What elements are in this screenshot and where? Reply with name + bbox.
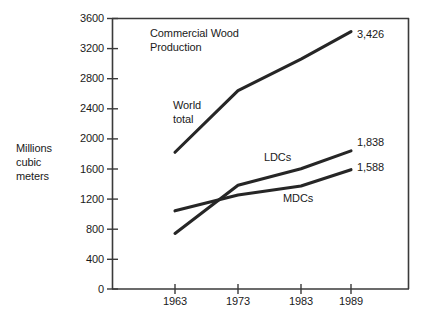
value-label-ldcs: 1,838 <box>357 136 384 149</box>
y-tick-label-400: 400 <box>66 253 104 266</box>
chart-title-line-1: Commercial Wood <box>150 26 239 40</box>
y-tick-label-1600: 1600 <box>66 163 104 176</box>
series-label-mdcs: MDCs <box>283 191 313 205</box>
series-line-mdcs <box>175 170 351 211</box>
y-tick-label-2000: 2000 <box>66 132 104 145</box>
y-tick-label-1200: 1200 <box>66 193 104 206</box>
chart-canvas <box>0 0 429 315</box>
series-label-world-total-line-2: total <box>173 112 193 126</box>
x-tick-label-1989: 1989 <box>328 295 374 308</box>
y-axis-title-line-2: cubic <box>16 155 41 169</box>
series-label-world-total-line-1: World <box>173 98 201 112</box>
y-axis-title-line-3: meters <box>16 169 49 183</box>
y-tick-label-2800: 2800 <box>66 72 104 85</box>
commercial-wood-production-chart: 3600 3200 2800 2400 2000 1600 1200 800 4… <box>0 0 429 315</box>
value-label-mdcs: 1,588 <box>357 161 384 174</box>
value-label-world-total: 3,426 <box>357 28 384 41</box>
y-tick-label-0: 0 <box>66 283 104 296</box>
chart-title-line-2: Production <box>150 40 202 54</box>
y-tick-label-800: 800 <box>66 223 104 236</box>
series-label-ldcs: LDCs <box>264 150 291 164</box>
y-tick-label-2400: 2400 <box>66 102 104 115</box>
y-tick-label-3600: 3600 <box>66 12 104 25</box>
data-series-group <box>175 32 351 234</box>
plot-frame <box>112 18 409 289</box>
y-axis-title-line-1: Millions <box>16 141 52 155</box>
x-tick-label-1973: 1973 <box>215 295 261 308</box>
x-tick-label-1983: 1983 <box>278 295 324 308</box>
y-tick-label-3200: 3200 <box>66 42 104 55</box>
x-tick-label-1963: 1963 <box>152 295 198 308</box>
